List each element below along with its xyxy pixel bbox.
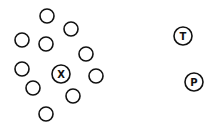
empty-circle bbox=[15, 62, 29, 76]
circle-cluster: X bbox=[15, 9, 103, 121]
node-t-label: T bbox=[180, 31, 187, 42]
empty-circle bbox=[89, 69, 103, 83]
node-p-label: P bbox=[190, 77, 197, 88]
empty-circle bbox=[15, 33, 29, 47]
empty-circle bbox=[79, 47, 93, 61]
empty-circle bbox=[39, 107, 53, 121]
empty-circle bbox=[39, 37, 53, 51]
diagram-canvas: X T P bbox=[0, 0, 222, 125]
empty-circle bbox=[40, 9, 54, 23]
node-t: T bbox=[174, 27, 192, 45]
node-x-label: X bbox=[57, 69, 65, 80]
empty-circle bbox=[26, 81, 40, 95]
empty-circle bbox=[64, 22, 78, 36]
node-p: P bbox=[185, 73, 203, 91]
node-x: X bbox=[52, 65, 70, 83]
empty-circle bbox=[66, 89, 80, 103]
